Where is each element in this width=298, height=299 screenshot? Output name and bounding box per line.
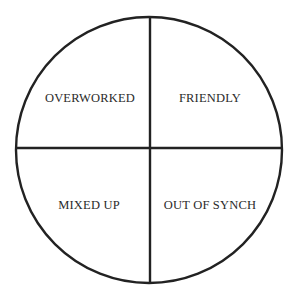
quadrant-circle xyxy=(0,0,298,299)
quadrant-label-top-left: OVERWORKED xyxy=(45,91,135,106)
quadrant-label-top-right: FRIENDLY xyxy=(179,91,241,106)
quadrant-label-bottom-right: OUT OF SYNCH xyxy=(164,198,256,213)
quadrant-label-bottom-left: MIXED UP xyxy=(58,198,120,213)
